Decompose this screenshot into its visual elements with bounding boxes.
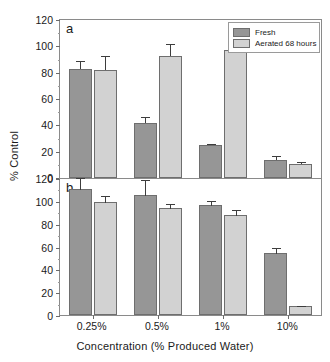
figure-container: % Control Concentration (% Produced Wate… <box>0 0 330 362</box>
error-bar-cap <box>166 44 175 45</box>
error-bar-cap <box>141 180 150 181</box>
y-tick-label: 20 <box>41 288 53 299</box>
y-minor-tick <box>58 213 60 214</box>
error-bar-cap <box>101 56 110 57</box>
error-bar-cap <box>232 210 241 211</box>
error-bar-cap <box>207 201 216 202</box>
y-tick <box>56 99 60 100</box>
x-tick-label: 0.25% <box>77 320 107 332</box>
error-bar <box>105 196 106 203</box>
y-tick-label: 40 <box>41 120 53 131</box>
error-bar-cap <box>141 117 150 118</box>
error-bar-cap <box>101 196 110 197</box>
y-tick <box>56 202 60 203</box>
y-tick-label: 20 <box>41 146 53 157</box>
y-tick <box>56 316 60 317</box>
x-tick <box>288 315 289 319</box>
legend-swatch-fresh <box>233 28 250 37</box>
legend-item-aerated: Aerated 68 hours <box>233 38 315 48</box>
bar-aerated <box>224 50 247 178</box>
y-tick <box>56 46 60 47</box>
y-tick-label: 60 <box>41 94 53 105</box>
y-tick <box>56 152 60 153</box>
y-minor-tick <box>58 139 60 140</box>
y-tick <box>56 225 60 226</box>
error-bar <box>276 248 277 255</box>
bar-fresh <box>199 145 222 178</box>
panel-b: b 020406080100120 <box>59 178 322 316</box>
error-bar-cap <box>166 204 175 205</box>
y-tick-label: 100 <box>35 41 53 52</box>
x-tick <box>158 315 159 319</box>
y-tick-label: 40 <box>41 265 53 276</box>
y-minor-tick <box>58 236 60 237</box>
x-tick-label: 1% <box>215 320 230 332</box>
bar-aerated <box>289 306 312 315</box>
y-tick <box>56 125 60 126</box>
bar-fresh <box>199 205 222 315</box>
error-bar <box>80 178 81 191</box>
y-minor-tick <box>58 259 60 260</box>
y-minor-tick <box>58 165 60 166</box>
bar-aerated <box>94 202 117 315</box>
error-bar-cap <box>272 156 281 157</box>
error-bar-cap <box>272 248 281 249</box>
bar-aerated <box>224 215 247 315</box>
y-tick-label: 80 <box>41 67 53 78</box>
bar-aerated <box>159 208 182 315</box>
bar-fresh <box>69 69 92 178</box>
bar-fresh <box>264 160 287 178</box>
bar-fresh <box>134 195 157 315</box>
legend-label-aerated: Aerated 68 hours <box>255 39 316 48</box>
x-tick <box>93 315 94 319</box>
y-minor-tick <box>58 33 60 34</box>
x-tick-label: 0.5% <box>145 320 169 332</box>
y-tick <box>56 73 60 74</box>
legend-swatch-aerated <box>233 39 250 48</box>
error-bar <box>170 44 171 56</box>
bar-fresh <box>134 123 157 178</box>
bar-fresh <box>69 189 92 315</box>
y-tick-label: 80 <box>41 219 53 230</box>
legend: Fresh Aerated 68 hours <box>228 22 320 53</box>
legend-item-fresh: Fresh <box>233 27 315 37</box>
x-axis-title: Concentration (% Produced Water) <box>0 340 330 352</box>
y-tick-label: 120 <box>35 174 53 185</box>
x-tick <box>223 315 224 319</box>
y-minor-tick <box>58 86 60 87</box>
y-tick-label: 0 <box>47 311 53 322</box>
y-tick-label: 120 <box>35 15 53 26</box>
y-axis-title: % Control <box>8 96 20 216</box>
bar-aerated <box>289 164 312 178</box>
bar-aerated <box>94 70 117 178</box>
bar-fresh <box>264 253 287 315</box>
y-tick-label: 100 <box>35 197 53 208</box>
error-bar <box>145 180 146 196</box>
y-minor-tick <box>58 190 60 191</box>
y-tick <box>56 270 60 271</box>
x-tick-label: 10% <box>277 320 298 332</box>
y-tick <box>56 20 60 21</box>
error-bar <box>80 61 81 69</box>
y-tick <box>56 248 60 249</box>
error-bar-cap <box>76 178 85 179</box>
y-minor-tick <box>58 60 60 61</box>
y-minor-tick <box>58 112 60 113</box>
y-minor-tick <box>58 282 60 283</box>
y-tick <box>56 179 60 180</box>
error-bar-cap <box>297 162 306 163</box>
y-minor-tick <box>58 305 60 306</box>
plot-area-b: 020406080100120 <box>60 179 321 315</box>
y-tick-label: 60 <box>41 242 53 253</box>
error-bar-cap <box>297 306 306 307</box>
error-bar-cap <box>207 144 216 145</box>
error-bar <box>105 56 106 70</box>
y-tick <box>56 293 60 294</box>
bar-aerated <box>159 56 182 178</box>
error-bar-cap <box>76 61 85 62</box>
legend-label-fresh: Fresh <box>255 28 275 37</box>
